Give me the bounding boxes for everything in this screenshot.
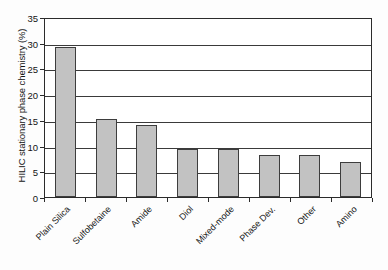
bar-slot	[167, 19, 208, 197]
y-tick-label: 20	[14, 91, 38, 100]
bar-slot	[86, 19, 127, 197]
bar[interactable]	[259, 155, 280, 197]
y-tick-label: 10	[14, 142, 38, 151]
y-tick-label: 25	[14, 65, 38, 74]
bar-slot	[330, 19, 371, 197]
bar-slot	[127, 19, 168, 197]
bar-slot	[45, 19, 86, 197]
x-axis-tick-labels: Plain SilicaSulfobetaineAmideDiolMixed-m…	[44, 200, 372, 268]
y-tick-label: 30	[14, 39, 38, 48]
bar[interactable]	[299, 155, 320, 197]
bar[interactable]	[218, 149, 239, 197]
bar-slot	[249, 19, 290, 197]
x-tick-mark	[372, 198, 373, 202]
bar-slot	[290, 19, 331, 197]
bar[interactable]	[177, 149, 198, 197]
bar[interactable]	[340, 162, 361, 197]
y-tick-label: 35	[14, 14, 38, 23]
plot-area	[44, 18, 372, 198]
bar[interactable]	[136, 125, 157, 197]
y-tick-label: 0	[14, 194, 38, 203]
y-axis-tick-labels: 05101520253035	[14, 18, 38, 198]
bar[interactable]	[96, 119, 117, 197]
bar-series	[45, 19, 371, 197]
y-tick-label: 15	[14, 116, 38, 125]
bar[interactable]	[55, 47, 76, 197]
y-tick-label: 5	[14, 168, 38, 177]
bar-slot	[208, 19, 249, 197]
bar-chart-figure: HILIC stationary phase chemistry (%) 051…	[0, 0, 388, 270]
